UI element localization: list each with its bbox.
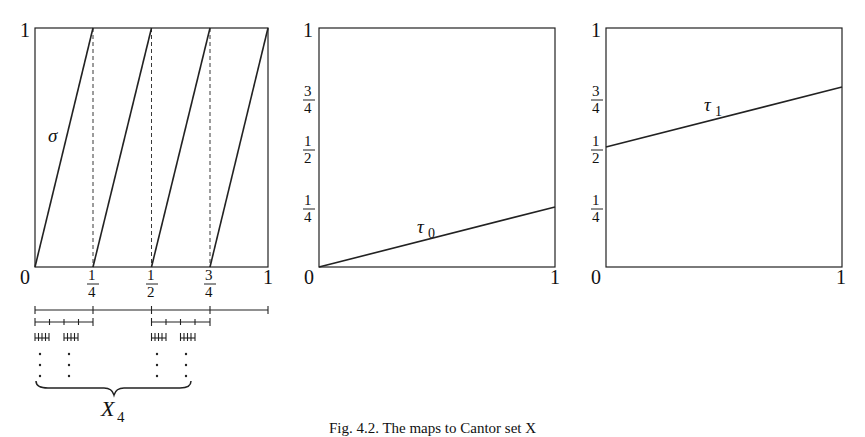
tau1-ytick-three-quarter: 3 4 bbox=[591, 83, 603, 116]
tau1-line bbox=[606, 87, 842, 147]
tau0-ytick-quarter: 1 4 bbox=[303, 192, 315, 225]
sigma-xtick-half: 1 2 bbox=[146, 267, 158, 300]
svg-text:1: 1 bbox=[88, 267, 96, 283]
sigma-xtick-0: 0 bbox=[20, 266, 30, 288]
svg-text:τ: τ bbox=[417, 216, 425, 237]
tau0-line bbox=[319, 207, 555, 267]
figure-caption: Fig. 4.2. The maps to Cantor set X bbox=[0, 420, 865, 437]
tau0-frame bbox=[319, 28, 555, 267]
sigma-xtick-three-quarter: 3 4 bbox=[204, 267, 216, 300]
svg-text:4: 4 bbox=[304, 209, 312, 225]
svg-text:1: 1 bbox=[592, 133, 600, 149]
svg-text:τ: τ bbox=[704, 94, 712, 115]
svg-text:1: 1 bbox=[147, 267, 155, 283]
svg-text:3: 3 bbox=[592, 83, 600, 99]
tau1-ytick-1: 1 bbox=[591, 19, 601, 41]
svg-text:4: 4 bbox=[304, 100, 312, 116]
tau1-panel bbox=[606, 28, 842, 267]
tau0-label: τ 0 bbox=[417, 216, 435, 241]
svg-text:1: 1 bbox=[592, 192, 600, 208]
tau0-panel bbox=[319, 28, 555, 267]
cantor-level2 bbox=[35, 333, 195, 341]
tau1-frame bbox=[606, 28, 842, 267]
sigma-panel bbox=[35, 28, 268, 267]
tau0-ytick-three-quarter: 3 4 bbox=[303, 83, 315, 116]
tau0-xtick-1: 1 bbox=[550, 266, 560, 288]
x4-brace bbox=[36, 381, 191, 395]
svg-text:4: 4 bbox=[592, 100, 600, 116]
svg-text:1: 1 bbox=[304, 133, 312, 149]
tau1-xtick-0: 0 bbox=[591, 266, 601, 288]
cantor-construction bbox=[35, 306, 268, 341]
tau1-label: τ 1 bbox=[704, 94, 722, 119]
svg-text:1: 1 bbox=[715, 104, 722, 119]
sigma-label: σ bbox=[48, 125, 58, 146]
tau0-ytick-1: 1 bbox=[303, 19, 313, 41]
sigma-xtick-1: 1 bbox=[263, 266, 273, 288]
svg-text:3: 3 bbox=[304, 83, 312, 99]
svg-text:4: 4 bbox=[88, 284, 96, 300]
svg-text:1: 1 bbox=[304, 192, 312, 208]
tau0-xtick-0: 0 bbox=[304, 266, 314, 288]
tau1-ytick-quarter: 1 4 bbox=[591, 192, 603, 225]
sigma-dashed-guides bbox=[93, 28, 210, 267]
svg-text:0: 0 bbox=[428, 226, 435, 241]
svg-text:2: 2 bbox=[304, 150, 312, 166]
cantor-ellipsis-dots bbox=[39, 353, 187, 377]
sigma-ytick-1: 1 bbox=[20, 19, 30, 41]
svg-text:X: X bbox=[100, 396, 116, 421]
svg-text:4: 4 bbox=[592, 209, 600, 225]
svg-text:4: 4 bbox=[205, 284, 213, 300]
svg-text:3: 3 bbox=[205, 267, 213, 283]
svg-text:2: 2 bbox=[592, 150, 600, 166]
svg-text:2: 2 bbox=[147, 284, 155, 300]
sigma-xtick-quarter: 1 4 bbox=[87, 267, 99, 300]
tau1-xtick-1: 1 bbox=[836, 266, 846, 288]
tau0-ytick-half: 1 2 bbox=[303, 133, 315, 166]
tau1-ytick-half: 1 2 bbox=[591, 133, 603, 166]
